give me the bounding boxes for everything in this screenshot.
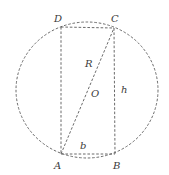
edge-cb [114,28,115,154]
inscribed-rectangle-diagram: D C A B R O h b [0,0,169,175]
diagonal-ac [61,28,114,154]
label-vertex-b: B [112,160,120,171]
label-vertex-a: A [53,160,61,171]
label-vertex-c: C [111,13,119,24]
label-vertex-d: D [53,13,62,24]
label-base-b: b [80,140,86,151]
circumscribed-circle [16,22,158,158]
label-center-o: O [91,88,99,99]
label-radius-r: R [84,58,93,69]
edge-dc [61,27,114,28]
label-height-h: h [121,84,127,95]
